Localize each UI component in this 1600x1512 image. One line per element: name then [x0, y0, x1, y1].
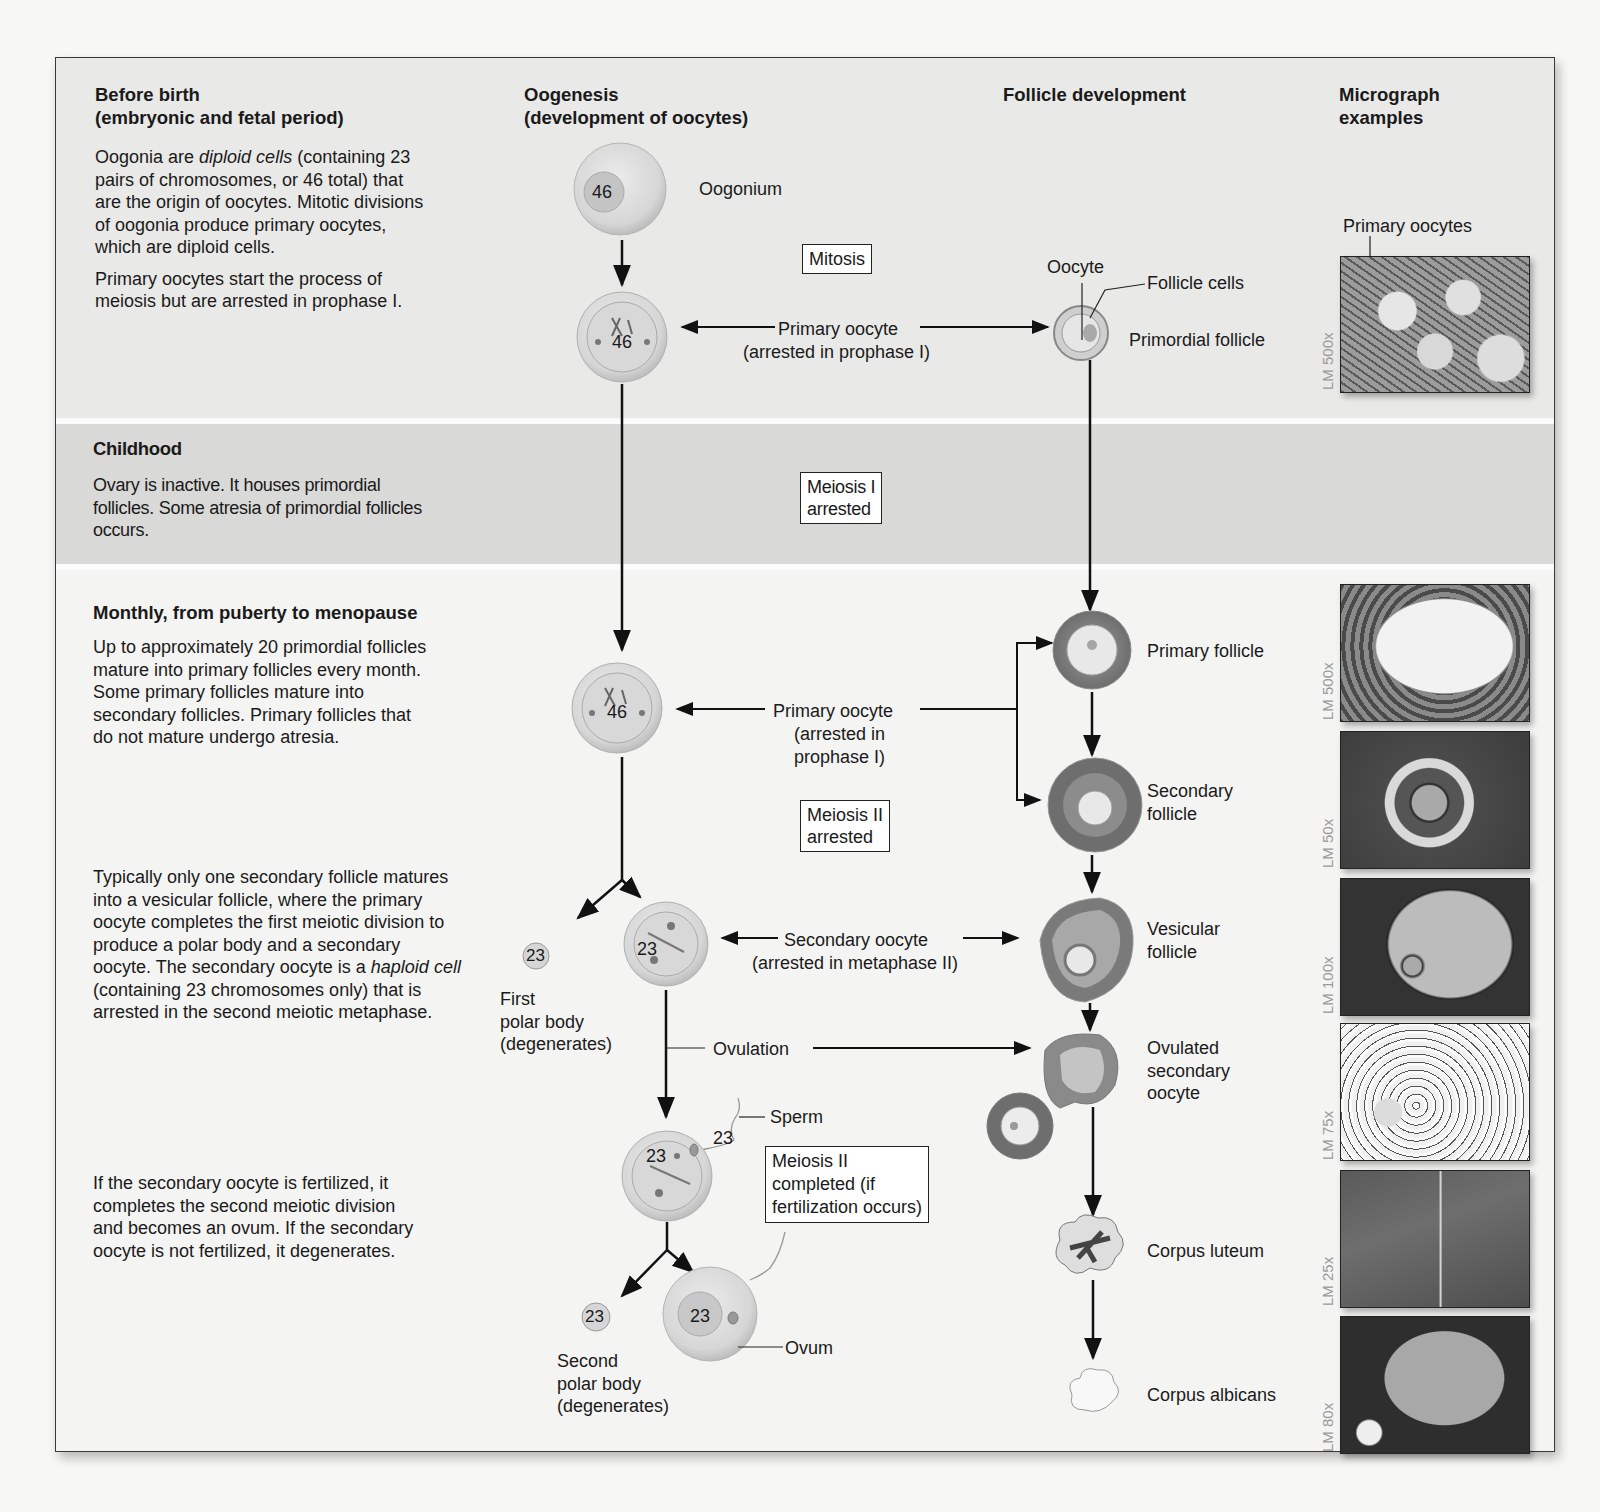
label-ovulated-secondary-oocyte: Ovulated secondary oocyte — [1147, 1037, 1230, 1105]
period-text-monthly-2: Typically only one secondary follicle ma… — [93, 866, 463, 1024]
magnification-label: LM 500x — [1319, 332, 1336, 390]
micrograph-secondary-follicle — [1340, 731, 1530, 869]
label-corpus-albicans: Corpus albicans — [1147, 1384, 1276, 1407]
magnification-label: LM 50x — [1319, 819, 1336, 868]
chromosome-count: 46 — [607, 702, 627, 723]
label-primary-follicle: Primary follicle — [1147, 640, 1264, 663]
sub-line: (arrested in — [794, 723, 885, 746]
title-line: (embryonic and fetal period) — [95, 107, 344, 130]
label-primary-oocyte: Primary oocyte — [773, 700, 893, 723]
box-line: Meiosis II — [807, 804, 883, 826]
magnification-label: LM 75x — [1319, 1111, 1336, 1160]
label-secondary-oocyte: Secondary oocyte — [784, 929, 928, 952]
process-box-mitosis: Mitosis — [802, 244, 872, 274]
label-vesicular-follicle: Vesicular follicle — [1147, 918, 1220, 963]
box-line: completed (if — [772, 1173, 922, 1196]
micrograph-primary-oocytes — [1340, 256, 1530, 393]
label-line: polar body — [557, 1373, 669, 1396]
period-title-monthly: Monthly, from puberty to menopause — [93, 602, 417, 625]
magnification-label: LM 100x — [1319, 956, 1336, 1014]
period-title-before-birth: Before birth (embryonic and fetal period… — [95, 84, 344, 129]
label-corpus-luteum: Corpus luteum — [1147, 1240, 1264, 1263]
micrograph-caption: Primary oocytes — [1343, 215, 1472, 238]
text: Oogonia are — [95, 147, 199, 167]
micrograph-ovulated-oocyte — [1340, 1023, 1530, 1161]
label-line: secondary — [1147, 1060, 1230, 1083]
process-box-meiosis2-completed: Meiosis II completed (if fertilization o… — [765, 1146, 929, 1223]
period-text-monthly-3: If the secondary oocyte is fertilized, i… — [93, 1172, 428, 1262]
label-primary-oocyte-sub: (arrested in prophase I) — [743, 341, 930, 364]
period-text-monthly-1: Up to approximately 20 primordial follic… — [93, 636, 433, 749]
chromosome-count: 23 — [585, 1307, 604, 1327]
col-header-follicle: Follicle development — [1003, 84, 1186, 107]
period-text-before-birth: Oogonia are diploid cells (containing 23… — [95, 146, 425, 322]
col-header-line: (development of oocytes) — [524, 107, 748, 130]
label-line: (degenerates) — [557, 1395, 669, 1418]
process-box-meiosis2-arrested: Meiosis II arrested — [800, 800, 890, 852]
paragraph: Oogonia are diploid cells (containing 23… — [95, 146, 425, 259]
label-oocyte: Oocyte — [1047, 256, 1104, 279]
sub-line: prophase I) — [794, 746, 885, 769]
label-line: follicle — [1147, 803, 1233, 826]
label-primary-oocyte-sub: (arrested in prophase I) — [794, 723, 885, 768]
label-line: Secondary — [1147, 780, 1233, 803]
label-line: Second — [557, 1350, 669, 1373]
magnification-label: LM 80x — [1319, 1403, 1336, 1452]
label-line: First — [500, 988, 612, 1011]
chromosome-count: 23 — [526, 946, 545, 966]
chromosome-count: 46 — [592, 182, 612, 203]
emphasis: diploid cells — [199, 147, 292, 167]
label-secondary-follicle: Secondary follicle — [1147, 780, 1233, 825]
chromosome-count: 23 — [713, 1128, 733, 1149]
label-primary-oocyte: Primary oocyte — [778, 318, 898, 341]
chromosome-count: 23 — [646, 1146, 666, 1167]
emphasis: haploid cell — [371, 957, 461, 977]
label-line: Vesicular — [1147, 918, 1220, 941]
paragraph: Primary oocytes start the process of mei… — [95, 268, 425, 313]
box-line: arrested — [807, 826, 883, 848]
col-header-oogenesis: Oogenesis (development of oocytes) — [524, 84, 748, 129]
label-line: oocyte — [1147, 1082, 1230, 1105]
col-header-micrograph: Micrograph examples — [1339, 84, 1440, 129]
col-header-line: Oogenesis — [524, 84, 748, 107]
label-sperm: Sperm — [770, 1106, 823, 1129]
magnification-label: LM 500x — [1319, 662, 1336, 720]
chromosome-count: 46 — [612, 332, 632, 353]
col-header-line: examples — [1339, 107, 1440, 130]
label-secondary-oocyte-sub: (arrested in metaphase II) — [752, 952, 958, 975]
box-line: Meiosis I — [807, 476, 875, 498]
box-line: fertilization occurs) — [772, 1196, 922, 1219]
process-box-meiosis1-arrested: Meiosis I arrested — [800, 472, 882, 524]
col-header-line: Micrograph — [1339, 84, 1440, 107]
label-line: follicle — [1147, 941, 1220, 964]
label-follicle-cells: Follicle cells — [1147, 272, 1244, 295]
label-line: Ovulated — [1147, 1037, 1230, 1060]
label-ovulation: Ovulation — [713, 1038, 789, 1061]
chromosome-count: 23 — [690, 1306, 710, 1327]
label-line: (degenerates) — [500, 1033, 612, 1056]
box-line: Meiosis II — [772, 1150, 922, 1173]
magnification-label: LM 25x — [1319, 1257, 1336, 1306]
chromosome-count: 23 — [637, 939, 657, 960]
label-line: polar body — [500, 1011, 612, 1034]
label-primordial-follicle: Primordial follicle — [1129, 329, 1265, 352]
label-oogonium: Oogonium — [699, 178, 782, 201]
label-first-polar-body: First polar body (degenerates) — [500, 988, 612, 1056]
label-ovum: Ovum — [785, 1337, 833, 1360]
label-second-polar-body: Second polar body (degenerates) — [557, 1350, 669, 1418]
title-line: Before birth — [95, 84, 344, 107]
period-title-childhood: Childhood — [93, 438, 182, 461]
period-text-childhood: Ovary is inactive. It houses primordial … — [93, 474, 433, 542]
micrograph-primary-follicle — [1340, 584, 1530, 722]
box-line: arrested — [807, 498, 875, 520]
micrograph-vesicular-follicle — [1340, 878, 1530, 1016]
micrograph-corpus-luteum — [1340, 1170, 1530, 1308]
text: (containing 23 chromosomes only) that is… — [93, 980, 432, 1023]
micrograph-corpus-albicans — [1340, 1316, 1530, 1454]
